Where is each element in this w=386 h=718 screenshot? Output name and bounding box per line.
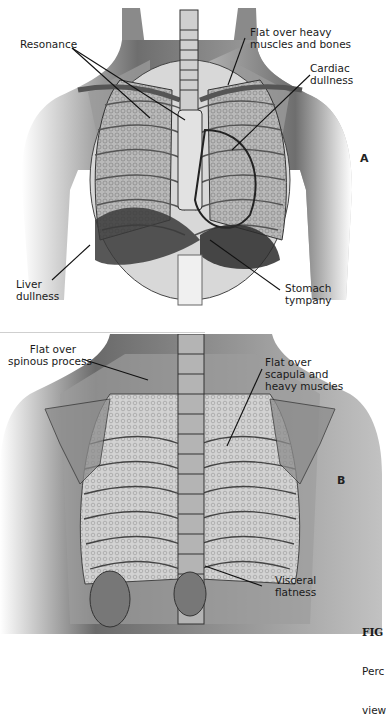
- figure-caption-label: FIG: [362, 626, 386, 639]
- panel-letter-a: A: [360, 152, 369, 165]
- label-stomach-tympany: Stomach tympany: [285, 282, 332, 306]
- figure-caption: FIG Perc view: [362, 600, 386, 718]
- label-cardiac-dullness: Cardiac dullness: [310, 62, 353, 86]
- panel-b-posterior-chest: Flat over spinous process Flat over scap…: [0, 334, 382, 634]
- panel-divider: [0, 332, 205, 333]
- label-flat-scapula-muscles: Flat over scapula and heavy muscles: [265, 356, 343, 392]
- label-resonance: Resonance: [20, 38, 77, 50]
- label-flat-spinous-process: Flat over spinous process: [8, 343, 76, 367]
- label-flat-heavy-muscles-bones: Flat over heavy muscles and bones: [250, 26, 351, 50]
- panel-a-anterior-chest: Resonance Flat over heavy muscles and bo…: [0, 0, 382, 330]
- label-visceral-flatness: Visceral flatness: [275, 574, 316, 598]
- label-liver-dullness: Liver dullness: [16, 278, 59, 302]
- figure-caption-line2: Perc: [362, 665, 386, 678]
- figure-caption-line3: view: [362, 704, 386, 717]
- panel-letter-b: B: [337, 474, 345, 487]
